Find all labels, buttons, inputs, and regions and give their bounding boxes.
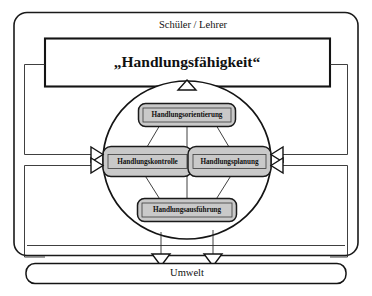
diagram-root: Schüler / Lehrer „Handlungsfähigkeit“ Ha… [0, 0, 372, 296]
node-handlungsausfuehrung[interactable]: Handlungsausführung [138, 199, 237, 222]
environment-box-label: Umwelt [170, 267, 204, 278]
node-planning-label: Handlungsplanung [201, 158, 259, 166]
label-schueler-lehrer: Schüler / Lehrer [159, 19, 228, 30]
handlungsfaehigkeit-diagram: Schüler / Lehrer „Handlungsfähigkeit“ Ha… [0, 0, 372, 296]
heading-box-label: „Handlungsfähigkeit“ [114, 53, 261, 70]
node-handlungsorientierung[interactable]: Handlungsorientierung [139, 104, 236, 127]
node-orientation-label: Handlungsorientierung [152, 111, 223, 119]
node-handlungskontrolle[interactable]: Handlungskontrolle [103, 147, 192, 177]
node-handlungsplanung[interactable]: Handlungsplanung [188, 147, 271, 177]
node-execution-label: Handlungsausführung [153, 206, 222, 214]
node-control-label: Handlungskontrolle [117, 158, 177, 166]
